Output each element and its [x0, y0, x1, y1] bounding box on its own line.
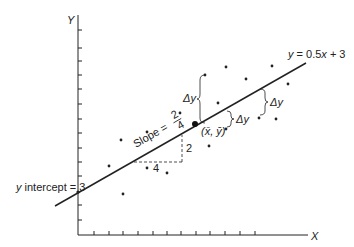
data-point	[208, 145, 211, 148]
delta-y-label-middle: Δy	[235, 113, 250, 125]
data-point	[120, 139, 123, 142]
svg-text:4: 4	[175, 118, 186, 131]
intercept-point	[76, 190, 79, 193]
brace-middle	[227, 111, 234, 127]
data-point	[245, 78, 248, 81]
data-point	[225, 128, 228, 131]
data-point	[122, 193, 125, 196]
x-axis-ticks	[94, 231, 255, 235]
data-point	[146, 131, 149, 134]
delta-y-label-left: Δy	[182, 92, 197, 104]
rise-label: 2	[186, 142, 192, 154]
y-axis-label: Y	[67, 14, 75, 26]
mean-point	[192, 121, 198, 127]
intercept-label: y intercept = 3	[15, 181, 85, 193]
regression-line	[55, 63, 306, 206]
mean-point-label: (x̄, ȳ)	[201, 125, 226, 137]
data-point	[166, 172, 169, 175]
svg-text:Slope =: Slope =	[131, 121, 170, 150]
data-point	[217, 102, 220, 105]
data-point	[258, 117, 261, 120]
equation-label: y = 0.5x + 3	[287, 48, 345, 60]
brace-left	[197, 75, 205, 123]
x-axis-label: X	[310, 230, 319, 242]
data-point	[225, 66, 228, 69]
data-point	[146, 167, 149, 170]
brace-right	[260, 89, 268, 115]
data-point	[179, 112, 182, 115]
data-points	[108, 65, 290, 196]
delta-y-label-right: Δy	[269, 96, 284, 108]
run-label: 4	[153, 162, 159, 174]
data-point	[275, 118, 278, 121]
data-point	[204, 74, 207, 77]
regression-diagram: Y X y = 0.5x + 3 y intercept = 3 2 4 Slo…	[0, 0, 354, 247]
data-point	[271, 65, 274, 68]
data-point	[108, 165, 111, 168]
data-point	[287, 83, 290, 86]
